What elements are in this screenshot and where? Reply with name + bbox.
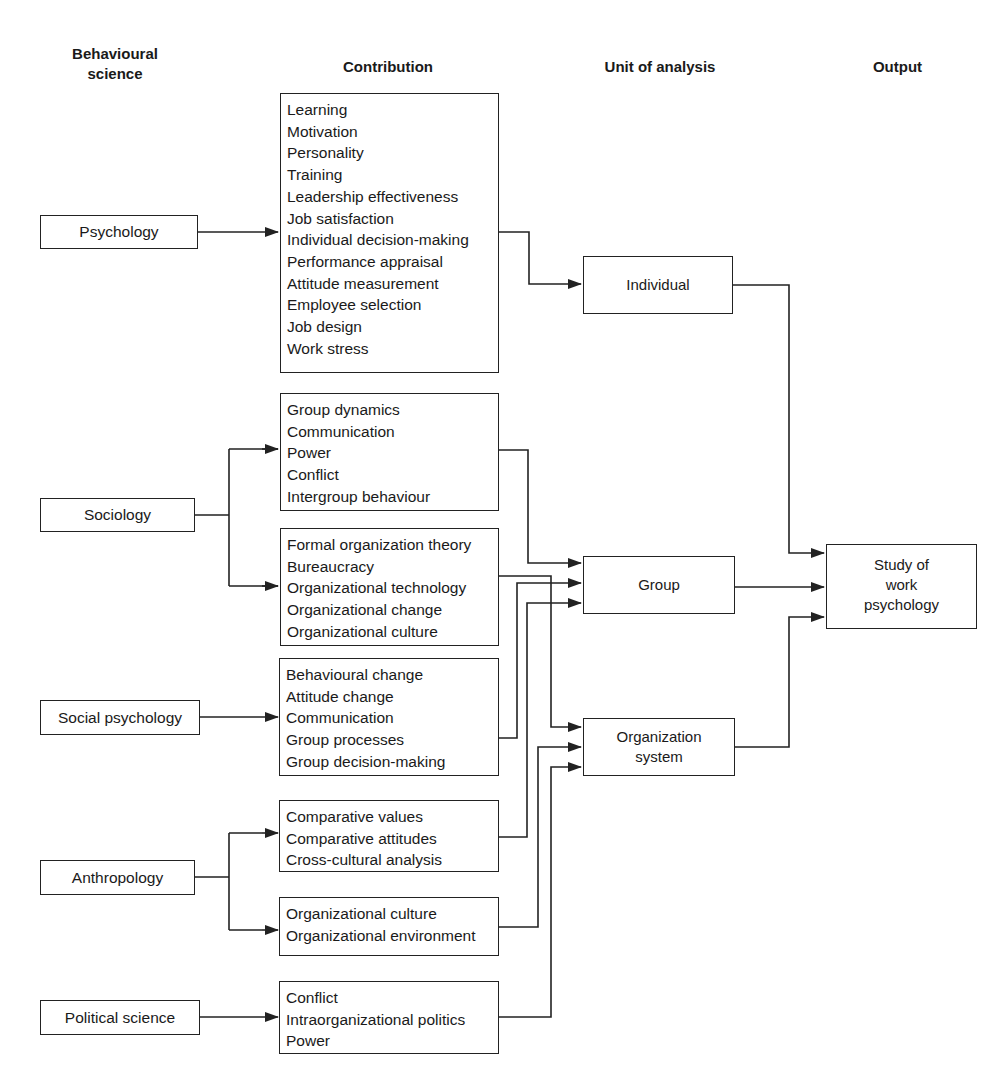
contribution-item: Employee selection bbox=[287, 294, 498, 316]
contribution-item: Organizational environment bbox=[286, 925, 498, 947]
contribution-item: Performance appraisal bbox=[287, 251, 498, 273]
contribution-item: Job design bbox=[287, 316, 498, 338]
contribution-box-sociology-group: Group dynamics Communication Power Confl… bbox=[280, 393, 499, 511]
contribution-item: Attitude change bbox=[286, 686, 498, 708]
contribution-box-political-science: Conflict Intraorganizational politics Po… bbox=[279, 981, 499, 1054]
unit-box-individual: Individual bbox=[583, 256, 733, 314]
contribution-item: Communication bbox=[287, 421, 498, 443]
contribution-item: Attitude measurement bbox=[287, 273, 498, 295]
science-box-sociology: Sociology bbox=[40, 498, 195, 532]
contribution-item: Motivation bbox=[287, 121, 498, 143]
unit-box-organization-system: Organization system bbox=[583, 718, 735, 776]
contribution-item: Formal organization theory bbox=[287, 534, 498, 556]
science-box-psychology: Psychology bbox=[40, 215, 198, 249]
contribution-item: Behavioural change bbox=[286, 664, 498, 686]
contribution-item: Communication bbox=[286, 707, 498, 729]
contribution-box-social-psychology: Behavioural change Attitude change Commu… bbox=[279, 658, 499, 776]
contribution-item: Organizational culture bbox=[286, 903, 498, 925]
contribution-item: Personality bbox=[287, 142, 498, 164]
contribution-item: Individual decision-making bbox=[287, 229, 498, 251]
unit-box-group: Group bbox=[583, 556, 735, 614]
contribution-item: Conflict bbox=[287, 464, 498, 486]
contribution-item: Bureaucracy bbox=[287, 556, 498, 578]
science-box-social-psychology: Social psychology bbox=[40, 700, 200, 735]
contribution-item: Organizational technology bbox=[287, 577, 498, 599]
contribution-item: Group processes bbox=[286, 729, 498, 751]
contribution-item: Power bbox=[286, 1030, 498, 1052]
contribution-item: Group decision-making bbox=[286, 751, 498, 773]
contribution-item: Job satisfaction bbox=[287, 208, 498, 230]
contribution-item: Comparative values bbox=[286, 806, 498, 828]
contribution-box-sociology-organization: Formal organization theory Bureaucracy O… bbox=[280, 528, 499, 646]
contribution-item: Conflict bbox=[286, 987, 498, 1009]
science-box-political-science: Political science bbox=[40, 1000, 200, 1035]
contribution-item: Organizational culture bbox=[287, 621, 498, 643]
contribution-item: Intergroup behaviour bbox=[287, 486, 498, 508]
contribution-item: Cross-cultural analysis bbox=[286, 849, 498, 871]
contribution-item: Training bbox=[287, 164, 498, 186]
contribution-box-anthropology-culture: Organizational culture Organizational en… bbox=[279, 897, 499, 956]
contribution-item: Organizational change bbox=[287, 599, 498, 621]
contribution-item: Learning bbox=[287, 99, 498, 121]
output-box-study-of-work-psychology: Study of work psychology bbox=[826, 544, 977, 629]
contribution-box-psychology: Learning Motivation Personality Training… bbox=[280, 93, 499, 373]
science-box-anthropology: Anthropology bbox=[40, 860, 195, 895]
contribution-item: Power bbox=[287, 442, 498, 464]
contribution-item: Leadership effectiveness bbox=[287, 186, 498, 208]
contribution-item: Intraorganizational politics bbox=[286, 1009, 498, 1031]
contribution-item: Comparative attitudes bbox=[286, 828, 498, 850]
contribution-item: Work stress bbox=[287, 338, 498, 360]
contribution-box-anthropology-values: Comparative values Comparative attitudes… bbox=[279, 800, 499, 872]
contribution-item: Group dynamics bbox=[287, 399, 498, 421]
